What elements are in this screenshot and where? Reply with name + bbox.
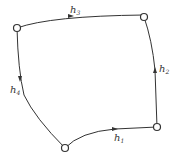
label-h4: h4	[10, 84, 20, 96]
node-top-left	[14, 25, 21, 32]
label-h2: h2	[159, 63, 169, 75]
graph-diagram: h3 h2 h4 h1	[0, 0, 175, 167]
label-h1: h1	[114, 132, 124, 144]
node-bottom	[62, 145, 69, 152]
node-bottom-right	[154, 124, 161, 131]
arrow-h2-icon	[153, 67, 157, 73]
edge-h4	[17, 28, 65, 148]
edge-h3	[17, 15, 144, 28]
edge-h1	[65, 127, 157, 148]
arrow-h1-icon	[112, 127, 118, 131]
node-top-right	[141, 14, 148, 21]
label-h3: h3	[70, 4, 80, 16]
